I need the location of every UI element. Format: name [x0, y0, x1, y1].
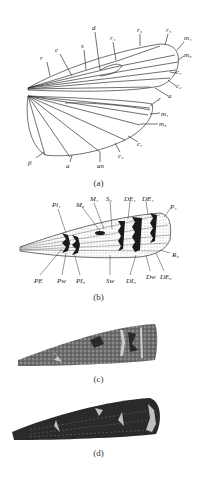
label-r3: R₃: [171, 251, 179, 259]
label-pw: Pw: [56, 277, 66, 285]
label-hw-c1: c₁: [137, 140, 143, 148]
caption-a: (a): [0, 178, 197, 188]
label-m1: m₁: [184, 34, 192, 42]
label-m1: M₁: [89, 195, 98, 203]
label-r2: r₂: [137, 26, 143, 34]
label-hw-c2: c₂: [118, 152, 124, 160]
pattern-diagram: Pi₁ M₂ M₁ S₁ DE₁ DE₁ P₁ R₃ PE Pw PI₃ Sw …: [0, 195, 197, 290]
label-hw-m1: m₁: [161, 110, 169, 118]
label-r: r: [40, 54, 43, 62]
label-hw-a: a: [66, 162, 70, 170]
label-s: s: [81, 42, 84, 50]
label-hw-m3: m₃: [159, 120, 167, 128]
caption-c: (c): [0, 374, 197, 384]
label-c: c: [55, 46, 59, 54]
label-m2: M₂: [75, 201, 85, 209]
label-di6: DI₆: [125, 277, 136, 285]
label-p1: P₁: [169, 203, 177, 211]
label-de1-a: DE₁: [123, 195, 136, 203]
panel-b-pattern: Pi₁ M₂ M₁ S₁ DE₁ DE₁ P₁ R₃ PE Pw PI₃ Sw …: [0, 195, 197, 290]
label-c2: c₂: [176, 82, 182, 90]
label-r5: r₅: [166, 26, 172, 34]
label-pe: PE: [33, 277, 43, 285]
label-dw: Dw: [145, 273, 156, 281]
label-sw: Sw: [106, 277, 115, 285]
panel-c-specimen: [0, 318, 197, 373]
caption-d: (d): [0, 448, 197, 458]
label-pi3: PI₃: [75, 277, 86, 285]
label-an: an: [97, 162, 105, 170]
label-hw-r: r: [158, 95, 161, 103]
panel-a-venation: r c s d r₁ r₂ r₅ m₁ m₃ c₁ c₂ a r m₁ m₃ c…: [0, 0, 197, 175]
caption-b: (b): [0, 292, 197, 302]
label-d: d: [92, 24, 96, 32]
label-de6: DE₆: [159, 273, 172, 281]
label-beta: β: [27, 159, 32, 167]
label-a: a: [168, 92, 172, 100]
specimen-grey-wing: [0, 318, 197, 373]
label-pi1: Pi₁: [51, 201, 61, 209]
label-m3: m₃: [184, 51, 192, 59]
venation-diagram: r c s d r₁ r₂ r₅ m₁ m₃ c₁ c₂ a r m₁ m₃ c…: [0, 0, 197, 175]
label-de1-b: DE₁: [141, 195, 154, 203]
label-r1: r₁: [110, 34, 115, 42]
label-s1: S₁: [106, 195, 112, 203]
label-c1: c₁: [176, 68, 182, 76]
specimen-dark-wing: [0, 390, 197, 445]
panel-d-specimen: [0, 390, 197, 445]
